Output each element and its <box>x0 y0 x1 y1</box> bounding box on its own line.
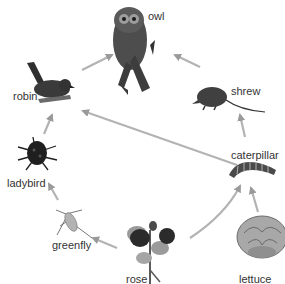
arrow-caterpillar-to-shrew <box>240 115 245 137</box>
ladybird-icon <box>18 137 57 170</box>
label-shrew: shrew <box>231 85 260 97</box>
label-lettuce: lettuce <box>239 273 271 284</box>
food-web-diagram: owl robin shrew caterpillar ladybird gre… <box>0 0 285 284</box>
arrow-rose-to-caterpillar <box>190 186 240 238</box>
label-robin: robin <box>13 90 37 102</box>
label-rose: rose <box>126 273 147 284</box>
arrow-greenfly-to-ladybird <box>49 184 58 200</box>
arrow-robin-to-owl <box>82 55 112 70</box>
arrow-caterpillar-to-robin <box>83 111 237 165</box>
label-ladybird: ladybird <box>7 177 46 189</box>
arrow-shrew-to-owl <box>175 55 200 67</box>
lettuce-icon <box>237 216 285 258</box>
arrow-ladybird-to-robin <box>44 115 52 134</box>
label-greenfly: greenfly <box>52 239 91 251</box>
arrow-lettuce-to-caterpillar <box>251 188 258 212</box>
label-owl: owl <box>148 10 165 22</box>
arrow-rose-to-greenfly <box>93 238 117 248</box>
food-web-graphics <box>0 0 285 284</box>
label-caterpillar: caterpillar <box>231 149 279 161</box>
greenfly-icon <box>56 210 92 238</box>
